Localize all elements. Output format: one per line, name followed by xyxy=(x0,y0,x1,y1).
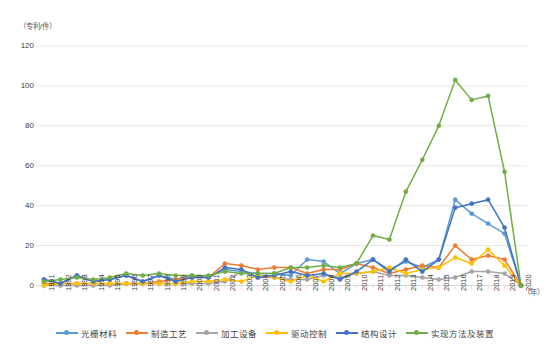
legend-swatch-icon xyxy=(56,329,78,337)
legend-swatch-icon xyxy=(336,329,358,337)
x-tick-2002: 2002 xyxy=(228,274,237,291)
x-tick-1997: 1997 xyxy=(146,274,155,291)
legend-label: 驱动控制 xyxy=(291,327,327,339)
y-tick-40: 40 xyxy=(8,201,34,210)
x-tick-2008: 2008 xyxy=(327,274,336,291)
legend-label: 加工设备 xyxy=(221,327,257,339)
x-tick-2013: 2013 xyxy=(409,274,418,291)
x-tick-2020: 2020 xyxy=(524,274,533,291)
y-tick-60: 60 xyxy=(8,161,34,170)
x-tick-1991: 1991 xyxy=(47,274,56,291)
legend-label: 制造工艺 xyxy=(151,327,187,339)
legend-swatch-icon xyxy=(196,329,218,337)
x-tick-2009: 2009 xyxy=(343,274,352,291)
x-tick-1996: 1996 xyxy=(130,274,139,291)
legend-swatch-icon xyxy=(266,329,288,337)
plot-area xyxy=(0,0,549,362)
x-tick-2014: 2014 xyxy=(426,274,435,291)
x-tick-2003: 2003 xyxy=(245,274,254,291)
x-tick-2017: 2017 xyxy=(475,274,484,291)
x-tick-2012: 2012 xyxy=(393,274,402,291)
legend-item-3[interactable]: 驱动控制 xyxy=(266,327,327,339)
y-tick-100: 100 xyxy=(8,81,34,90)
y-tick-0: 0 xyxy=(8,281,34,290)
x-tick-2010: 2010 xyxy=(360,274,369,291)
y-axis-unit-label: （专利/件） xyxy=(19,20,56,31)
chart-legend: 光栅材料制造工艺加工设备驱动控制结构设计实现方法及装置 xyxy=(0,327,549,339)
legend-swatch-icon xyxy=(406,329,428,337)
series-5 xyxy=(42,78,523,288)
legend-item-1[interactable]: 制造工艺 xyxy=(126,327,187,339)
x-tick-1994: 1994 xyxy=(97,274,106,291)
x-tick-1995: 1995 xyxy=(113,274,122,291)
legend-label: 结构设计 xyxy=(361,327,397,339)
legend-label: 实现方法及装置 xyxy=(431,327,494,339)
legend-item-0[interactable]: 光栅材料 xyxy=(56,327,117,339)
x-tick-2011: 2011 xyxy=(376,274,385,290)
gridlines xyxy=(36,46,527,286)
x-tick-2007: 2007 xyxy=(311,274,320,291)
x-tick-2018: 2018 xyxy=(492,274,501,291)
x-tick-2004: 2004 xyxy=(261,274,270,291)
legend-label: 光栅材料 xyxy=(81,327,117,339)
legend-item-4[interactable]: 结构设计 xyxy=(336,327,397,339)
x-tick-1992: 1992 xyxy=(64,274,73,291)
y-tick-20: 20 xyxy=(8,241,34,250)
y-tick-120: 120 xyxy=(8,41,34,50)
patent-trend-line-chart: （专利/件） （年） 020406080100120 1991199219931… xyxy=(0,0,549,362)
x-tick-2000: 2000 xyxy=(195,274,204,291)
y-tick-80: 80 xyxy=(8,121,34,130)
x-tick-2015: 2015 xyxy=(442,274,451,291)
x-tick-1999: 1999 xyxy=(179,274,188,291)
x-tick-2006: 2006 xyxy=(294,274,303,291)
x-tick-1998: 1998 xyxy=(163,274,172,291)
x-tick-2005: 2005 xyxy=(278,274,287,291)
x-tick-2019: 2019 xyxy=(508,274,517,291)
legend-item-2[interactable]: 加工设备 xyxy=(196,327,257,339)
x-tick-1993: 1993 xyxy=(80,274,89,291)
x-tick-2001: 2001 xyxy=(212,274,221,291)
legend-item-5[interactable]: 实现方法及装置 xyxy=(406,327,494,339)
x-tick-2016: 2016 xyxy=(459,274,468,291)
legend-swatch-icon xyxy=(126,329,148,337)
